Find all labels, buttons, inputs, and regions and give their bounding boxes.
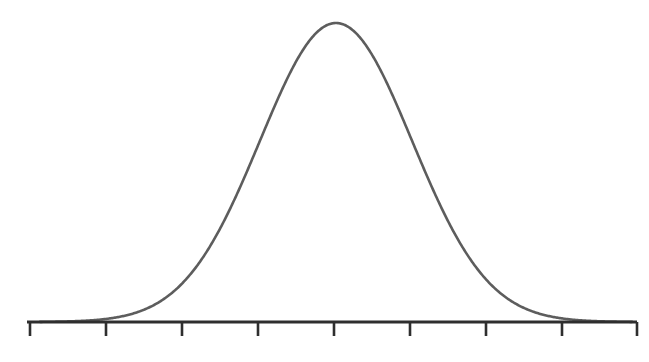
chart-figure [0,0,649,362]
plot-canvas [0,0,649,362]
plot-background [0,0,649,362]
